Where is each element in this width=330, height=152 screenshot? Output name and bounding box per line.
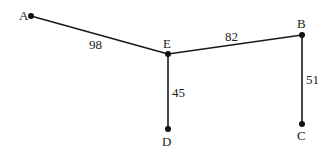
edge-weight-label: 45: [172, 85, 185, 100]
node-a: [28, 13, 34, 19]
graph-diagram: 98824551 AEBDC: [0, 0, 330, 152]
edges: 98824551: [31, 16, 319, 129]
node-label: B: [297, 16, 306, 31]
node-d: [165, 126, 171, 132]
edge-weight-label: 82: [225, 29, 238, 44]
edge-weight-label: 51: [306, 72, 319, 87]
node-label: A: [19, 8, 29, 23]
node-b: [299, 32, 305, 38]
node-label: D: [162, 134, 171, 149]
edge-weight-label: 98: [89, 37, 102, 52]
nodes: AEBDC: [19, 8, 306, 149]
node-label: E: [163, 36, 171, 51]
node-e: [165, 51, 171, 57]
node-label: C: [297, 128, 306, 143]
node-c: [299, 121, 305, 127]
